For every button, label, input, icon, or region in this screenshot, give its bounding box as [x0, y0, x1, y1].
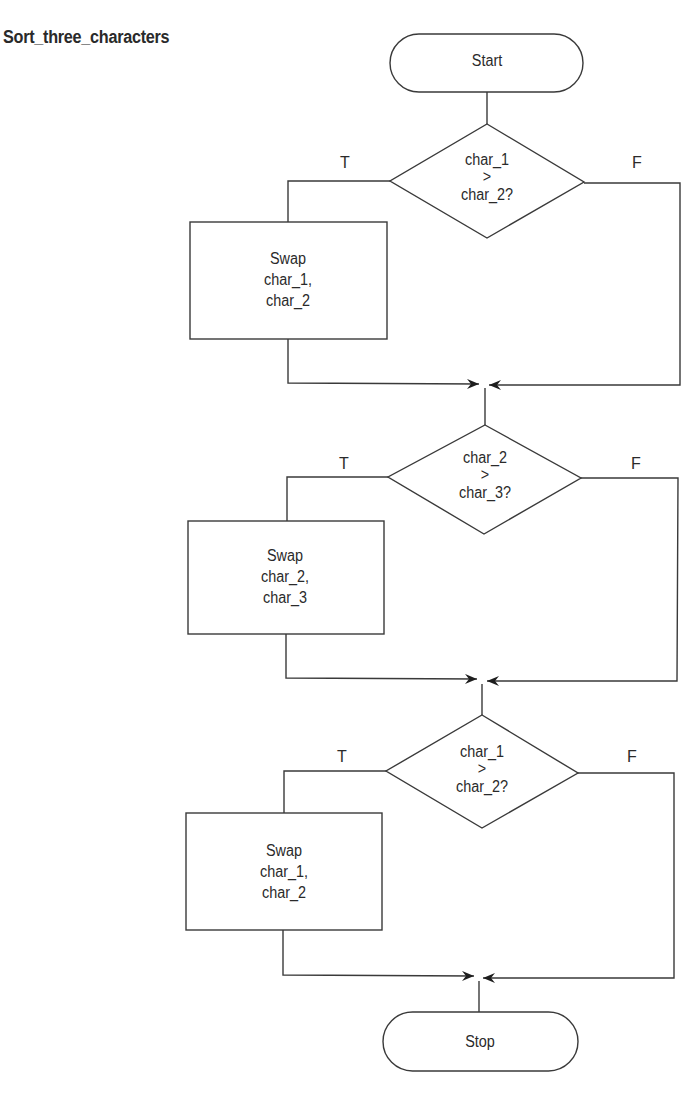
decision-2-operand-b: char_3?: [431, 482, 539, 503]
decision-1-operand-a: char_1: [433, 149, 541, 170]
decision-2-true-label: T: [339, 455, 349, 473]
true-branch-2: [287, 477, 388, 521]
start-label: Start: [442, 50, 532, 71]
decision-1-true-label: T: [340, 154, 350, 172]
decision-3-operand-a: char_1: [428, 741, 536, 762]
process-2-text: Swap char_2, char_3: [231, 545, 339, 608]
decision-1-false-label: F: [632, 154, 642, 172]
decision-2-operator: >: [431, 468, 539, 482]
decision-2-false-label: F: [631, 455, 641, 473]
process-2-var-a: char_2,: [231, 566, 339, 587]
false-branch-2: [487, 478, 678, 681]
process-1-action: Swap: [234, 248, 342, 269]
true-branch-3: [284, 771, 386, 813]
decision-1-text: char_1 > char_2?: [433, 149, 541, 205]
process-1-var-b: char_2: [234, 290, 342, 311]
process-3-var-b: char_2: [230, 882, 338, 903]
decision-3-false-label: F: [627, 748, 637, 766]
process-2-var-b: char_3: [231, 587, 339, 608]
decision-1-operand-b: char_2?: [433, 184, 541, 205]
decision-3-operator: >: [428, 762, 536, 776]
flowchart-canvas: [0, 0, 700, 1099]
decision-3-operand-b: char_2?: [428, 776, 536, 797]
process-3-var-a: char_1,: [230, 861, 338, 882]
process-3-text: Swap char_1, char_2: [230, 840, 338, 903]
process-1-text: Swap char_1, char_2: [234, 248, 342, 311]
true-return-2: [286, 634, 477, 679]
decision-1-operator: >: [433, 170, 541, 184]
process-3-action: Swap: [230, 840, 338, 861]
false-branch-3: [483, 773, 674, 978]
false-branch-1: [489, 183, 680, 385]
decision-3-text: char_1 > char_2?: [428, 741, 536, 797]
process-1-var-a: char_1,: [234, 269, 342, 290]
true-return-3: [283, 930, 474, 976]
stop-label: Stop: [435, 1031, 525, 1052]
true-return-1: [288, 339, 479, 384]
decision-2-text: char_2 > char_3?: [431, 447, 539, 503]
decision-3-true-label: T: [337, 748, 347, 766]
process-2-action: Swap: [231, 545, 339, 566]
true-branch-1: [288, 181, 390, 222]
decision-2-operand-a: char_2: [431, 447, 539, 468]
